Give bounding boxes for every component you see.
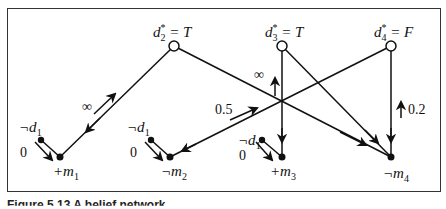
edge-arrow-d2-m4	[340, 132, 366, 145]
edge-arrow-d2-m1	[86, 118, 100, 132]
label-d4-half: 0.5	[215, 103, 233, 117]
label-m3: +m3	[270, 164, 296, 182]
belief-network-figure: d*2 = T d*3 = T d*4 = F ¬d1 ¬d1 ¬d1 0 0 …	[0, 0, 446, 209]
message-arrow-m1-zero	[35, 142, 52, 160]
label-m3-zero: 0	[239, 149, 246, 163]
label-m1-zero: 0	[20, 146, 27, 160]
label-m2: ¬m2	[161, 164, 187, 182]
message-arrow-d2-m1-inf	[94, 94, 115, 114]
label-d4-m4-point2: 0.2	[408, 103, 426, 117]
label-d2: d*2 = T	[153, 23, 191, 43]
label-negd1-a: ¬d1	[19, 120, 42, 138]
node-m4	[388, 154, 395, 161]
label-m1: +m1	[53, 164, 79, 182]
node-m3	[279, 154, 286, 161]
edge-arrow-d4-m2	[182, 144, 196, 151]
label-d3: d*3 = T	[265, 23, 303, 43]
message-arrow-m2-zero	[145, 142, 162, 160]
message-arrow-d4-half	[230, 108, 257, 120]
label-d2-m1-inf: ∞	[82, 100, 92, 114]
node-m1	[57, 154, 64, 161]
edge-negd1-m1	[41, 140, 60, 157]
node-m2	[167, 154, 174, 161]
label-d3-inf: ∞	[254, 68, 264, 82]
label-m4: ¬m4	[383, 166, 409, 184]
edge-negd1-m2	[151, 140, 170, 157]
label-m2-zero: 0	[130, 146, 137, 160]
label-negd1-b: ¬d1	[127, 120, 150, 138]
edge-d2-m1	[60, 46, 174, 157]
label-d4: d*4 = F	[374, 23, 413, 43]
edge-negd1-m3	[262, 140, 282, 157]
edge-arrow-d3-m4	[365, 130, 378, 143]
